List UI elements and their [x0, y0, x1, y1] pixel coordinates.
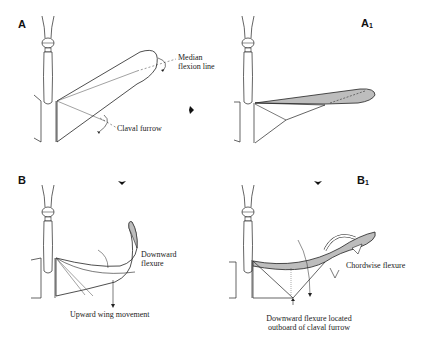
panel-b1-drawing — [229, 181, 375, 305]
panel-label-b1: B1 — [357, 174, 369, 186]
annotation-downward-flexure-outboard: Downward flexure located outboard of cla… — [254, 314, 364, 332]
annotation-median-flexion-line: Median flexion line — [178, 53, 215, 71]
panel-label-b: B — [18, 174, 26, 186]
panel-label-a1: A1 — [361, 17, 373, 29]
panel-a-drawing — [34, 16, 194, 142]
panel-b-drawing — [31, 181, 137, 308]
wing-flexion-diagram — [0, 0, 425, 344]
annotation-upward-wing-movement: Upward wing movement — [70, 310, 150, 319]
panel-label-a: A — [18, 18, 26, 30]
panel-a1-drawing — [234, 16, 375, 143]
annotation-chordwise-flexure: Chordwise flexure — [346, 261, 405, 270]
annotation-downward-flexure: Downward flexure — [141, 250, 177, 268]
annotation-claval-furrow: Claval furrow — [117, 124, 162, 133]
